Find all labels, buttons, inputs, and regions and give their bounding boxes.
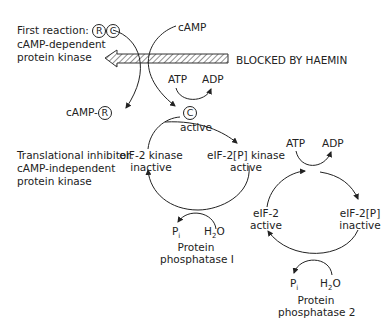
blocked-by-haemin-label: BLOCKED BY HAEMIN [236,54,347,66]
eif2-name: eIF-2 [244,207,288,219]
camp-r-label: cAMP-R [66,106,112,120]
phosphatase1-h2o: H2O [204,225,225,242]
catalytic-subunit-icon: C [183,106,197,120]
c-active-state: active [180,121,212,133]
c-active-symbol: C [183,106,197,120]
camp-r-prefix: cAMP- [66,106,98,118]
arrow-eif2-to-center [267,171,305,207]
protein-kinase-label: protein kinase [17,51,92,63]
first-reaction-title: First reaction: [17,24,89,36]
phosphatase2-arc [294,260,332,275]
eif2p-state: inactive [332,219,388,231]
arrow-to-c-active [148,26,176,106]
camp-label: cAMP [178,21,206,33]
eif2-kinase-state: inactive [118,161,184,173]
h-text: H [320,277,328,289]
translational-inhibitor-label: Translational inhibitor: [17,149,134,161]
eif2-kinase-name: eIF-2 kinase [118,149,184,161]
eif2p-kinase-state: active [203,161,289,173]
phosphatase2-pi: Pi [290,277,298,294]
eif2-active: eIF-2 active [244,207,288,231]
top-atp-label: ATP [168,73,187,85]
h-text: H [204,225,212,237]
right-atp-adp-arc [296,151,331,165]
phosphatase1-line2: phosphatase I [160,253,232,265]
first-reaction-label: First reaction: RC [17,24,120,38]
right-atp-label: ATP [286,137,305,149]
phosphatase1-line1: Protein [160,241,232,253]
o-text: O [332,277,340,289]
regulatory-subunit-icon: R [92,24,106,38]
arrow-to-camp-r [113,30,140,108]
phosphatase1-label: Protein phosphatase I [160,241,232,265]
regulatory-subunit-icon: R [98,106,112,120]
top-adp-label: ADP [202,73,224,85]
phosphatase2-h2o: H2O [320,277,341,294]
eif2-kinase-inactive: eIF-2 kinase inactive [118,149,184,173]
camp-dependent-label: cAMP-dependent [17,38,106,50]
eif2-state: active [244,219,288,231]
arrow-center-to-eif2p [320,172,358,199]
pi-sub: i [296,284,298,292]
phosphatase2-line1: Protein [278,294,354,306]
eif2p-kinase-name: eIF-2[P] kinase [203,149,289,161]
right-adp-label: ADP [322,137,344,149]
phosphatase2-line2: phosphatase 2 [278,306,354,318]
camp-independent-label: cAMP-independent [17,162,115,174]
top-atp-adp-arc [176,88,211,99]
protein-kinase-label-2: protein kinase [17,175,92,187]
phosphatase2-label: Protein phosphatase 2 [278,294,354,318]
pi-sub: i [178,232,180,240]
eif2p-inactive: eIF-2[P] inactive [332,207,388,231]
eif2p-kinase-active: eIF-2[P] kinase active [203,149,289,173]
blocked-arrow [105,50,228,67]
eif2p-name: eIF-2[P] [332,207,388,219]
arrow-eif2p-to-eif2 [268,230,358,253]
o-text: O [216,225,224,237]
phosphatase1-pi: Pi [172,225,180,242]
catalytic-subunit-icon: C [106,24,120,38]
